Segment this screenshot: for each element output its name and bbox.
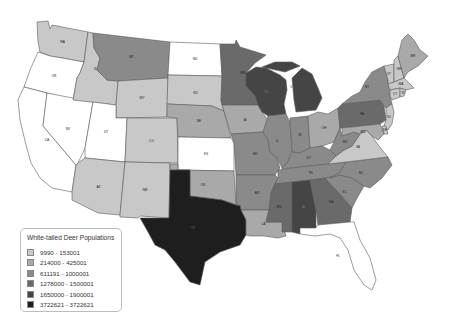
legend-swatch bbox=[27, 280, 34, 287]
state-label: WY bbox=[139, 96, 145, 100]
legend-swatch bbox=[27, 249, 34, 256]
state-label: AL bbox=[302, 205, 306, 209]
state-label: TN bbox=[308, 171, 313, 175]
legend-swatch bbox=[27, 301, 34, 308]
state-label: NE bbox=[197, 119, 201, 123]
state-label: VT bbox=[387, 72, 391, 76]
legend-swatch bbox=[27, 270, 34, 277]
legend-label: 9990 - 153001 bbox=[40, 249, 80, 256]
state-label: NH bbox=[397, 67, 402, 71]
legend-item: 3722621 - 3722621 bbox=[27, 300, 121, 311]
state-label: MI bbox=[290, 85, 294, 89]
legend-label: 214000 - 425001 bbox=[40, 259, 87, 266]
legend-label: 3722621 - 3722621 bbox=[40, 301, 94, 308]
state-label: WV bbox=[342, 140, 348, 144]
legend-label: 1278000 - 1500001 bbox=[40, 280, 94, 287]
state-label: DE bbox=[383, 128, 387, 132]
state-label: RI bbox=[401, 91, 404, 95]
state-label: MN bbox=[241, 71, 247, 75]
state-label: AR bbox=[255, 191, 260, 195]
state-label: ND bbox=[193, 57, 198, 61]
legend-item: 1650000 - 1900001 bbox=[27, 289, 121, 300]
legend-item: 9990 - 153001 bbox=[27, 247, 121, 258]
state-label: UT bbox=[104, 130, 108, 134]
state-label: OH bbox=[322, 126, 327, 130]
state-label: FL bbox=[336, 254, 340, 258]
legend-label: 1650000 - 1900001 bbox=[40, 291, 94, 298]
state-label: CO bbox=[149, 139, 154, 143]
state-label: ME bbox=[411, 54, 416, 58]
state-label: SD bbox=[193, 91, 198, 95]
state-label: WI bbox=[265, 90, 269, 94]
legend-label: 611191 - 1000001 bbox=[40, 270, 89, 277]
legend-item: 214000 - 425001 bbox=[27, 258, 121, 269]
legend-item: 611191 - 1000001 bbox=[27, 268, 121, 279]
state-label: SC bbox=[342, 190, 347, 194]
state-label: KS bbox=[204, 152, 208, 156]
state-label: MD bbox=[361, 130, 367, 134]
state-label: IL bbox=[276, 139, 279, 143]
legend-swatch bbox=[27, 259, 34, 266]
state-label: NC bbox=[359, 171, 364, 175]
legend-swatch bbox=[27, 291, 34, 298]
map-legend: White-tailed Deer Populations 9990 - 153… bbox=[20, 228, 122, 312]
state-label: NJ bbox=[387, 115, 391, 119]
state-label: OR bbox=[52, 74, 57, 78]
state-label: NM bbox=[143, 188, 148, 192]
legend-item: 1278000 - 1500001 bbox=[27, 279, 121, 290]
state-label: CT bbox=[393, 92, 397, 96]
legend-title: White-tailed Deer Populations bbox=[27, 234, 121, 241]
state-label: MS bbox=[277, 205, 282, 209]
state-label: MO bbox=[253, 152, 259, 156]
state-label: AZ bbox=[96, 185, 100, 189]
state-label: MT bbox=[129, 55, 134, 59]
state-label: WA bbox=[60, 40, 66, 44]
